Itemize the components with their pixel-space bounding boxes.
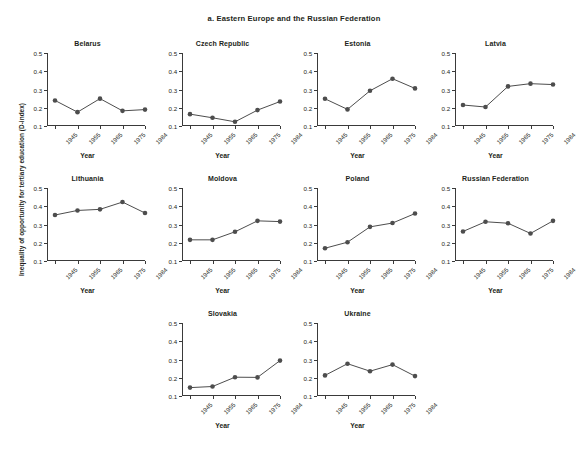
x-tick [235,396,236,399]
y-tick-label: 0.4 [442,68,451,75]
x-tick-label: 1965 [379,266,394,281]
x-tick-label: 1955 [221,131,236,146]
y-tick [314,261,317,262]
plot-area: 0.50.40.30.20.119451955196519751984 [182,53,280,126]
data-point [323,246,328,251]
data-point [120,200,125,205]
chart-panel-latvia: Latvia0.50.40.30.20.11945195519651975198… [428,40,563,175]
y-tick-label: 0.1 [169,258,178,265]
y-tick-label: 0.2 [169,239,178,246]
x-tick [235,261,236,264]
x-axis-title: Year [428,287,563,294]
x-tick [280,261,281,264]
plot-area: 0.50.40.30.20.119451955196519751984 [317,323,415,396]
y-tick-label: 0.5 [304,320,313,327]
y-tick-label: 0.4 [304,338,313,345]
y-tick-label: 0.1 [442,123,451,130]
x-tick [100,126,101,129]
x-tick-label: 1955 [86,131,101,146]
series-line [325,214,415,249]
y-tick-label: 0.5 [34,185,43,192]
x-tick-label: 1975 [401,401,416,416]
y-tick-label: 0.1 [304,393,313,400]
data-point [255,108,260,113]
plot-area: 0.50.40.30.20.119451955196519751984 [455,53,553,126]
data-point [368,88,373,93]
x-tick [370,261,371,264]
y-tick-label: 0.2 [169,104,178,111]
y-tick-label: 0.1 [169,393,178,400]
x-tick [190,126,191,129]
chart-panel-poland: Poland0.50.40.30.20.11945195519651975198… [290,175,425,310]
y-tick-label: 0.1 [34,123,43,130]
x-tick-label: 1945 [199,131,214,146]
y-tick-label: 0.5 [34,50,43,57]
x-tick-label: 1975 [401,131,416,146]
panel-title: Poland [290,175,425,182]
plot-area: 0.50.40.30.20.119451955196519751984 [47,53,145,126]
y-tick-label: 0.4 [34,203,43,210]
x-tick [235,126,236,129]
data-point [413,86,418,91]
y-tick-label: 0.3 [442,86,451,93]
data-point [345,107,350,112]
y-tick-label: 0.2 [169,374,178,381]
panel-title: Ukraine [290,310,425,317]
data-series-ukraine [317,323,415,396]
y-tick-label: 0.4 [169,68,178,75]
x-tick-label: 1955 [221,401,236,416]
y-tick-label: 0.1 [304,123,313,130]
data-series-lithuania [47,188,145,261]
x-tick-label: 1975 [131,266,146,281]
x-axis-title: Year [155,287,290,294]
y-tick-label: 0.3 [169,356,178,363]
data-point [143,107,148,112]
x-tick [463,261,464,264]
x-tick [370,396,371,399]
x-tick [145,261,146,264]
plot-area: 0.50.40.30.20.119451955196519751984 [182,323,280,396]
y-tick-label: 0.3 [304,86,313,93]
x-tick [508,126,509,129]
y-tick-label: 0.3 [34,221,43,228]
x-tick [213,126,214,129]
data-point [278,358,283,363]
x-tick [78,126,79,129]
x-tick-label: 1945 [199,401,214,416]
panel-title: Latvia [428,40,563,47]
plot-area: 0.50.40.30.20.119451955196519751984 [317,188,415,261]
data-series-poland [317,188,415,261]
data-point [210,238,215,243]
chart-panel-russian-federation: Russian Federation0.50.40.30.20.11945195… [428,175,563,310]
data-point [390,362,395,367]
x-tick-label: 1975 [539,131,554,146]
data-point [551,219,556,224]
y-tick-label: 0.4 [169,338,178,345]
y-tick-label: 0.1 [304,258,313,265]
x-axis-title: Year [20,152,155,159]
data-point [278,99,283,104]
data-point [188,112,193,117]
y-tick [44,261,47,262]
x-tick [100,261,101,264]
y-tick [179,396,182,397]
data-series-estonia [317,53,415,126]
x-tick [348,261,349,264]
x-axis-title: Year [20,287,155,294]
x-axis-title: Year [155,152,290,159]
data-point [188,238,193,243]
x-tick [486,126,487,129]
small-multiples-grid: Belarus0.50.40.30.20.1194519551965197519… [0,40,588,445]
y-tick-label: 0.3 [34,86,43,93]
y-tick [44,126,47,127]
panel-title: Belarus [20,40,155,47]
x-tick [553,126,554,129]
y-tick-label: 0.3 [304,221,313,228]
panel-title: Lithuania [20,175,155,182]
panel-title: Slovakia [155,310,290,317]
y-tick [452,126,455,127]
data-point [255,219,260,224]
panel-title: Russian Federation [428,175,563,182]
x-tick [531,261,532,264]
x-tick-label: 1945 [64,131,79,146]
